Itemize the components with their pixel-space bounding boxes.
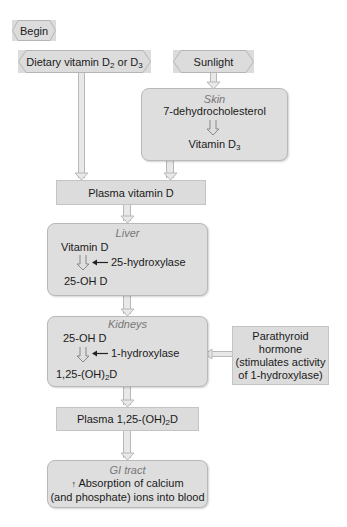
- skin-substrate: 7-dehydrocholesterol: [142, 105, 287, 118]
- kidneys-box: Kidneys 25-OH D 1-hydroxylase 1,25-(OH)2…: [47, 316, 208, 387]
- sunlight-label: Sunlight: [194, 56, 234, 68]
- gi-organ-label: GI tract: [48, 464, 207, 477]
- kidneys-substrate: 25-OH D: [63, 332, 106, 345]
- kidneys-product: 1,25-(OH)2D: [56, 368, 117, 381]
- enzyme-arrow-icon: [92, 259, 108, 266]
- liver-organ-label: Liver: [48, 227, 207, 239]
- liver-product: 25-OH D: [64, 275, 107, 288]
- sunlight-node: Sunlight: [173, 50, 254, 73]
- skin-organ-label: Skin: [142, 93, 287, 105]
- begin-label: Begin: [20, 25, 48, 37]
- begin-node: Begin: [12, 20, 56, 41]
- skin-product: Vitamin D3: [142, 138, 287, 151]
- plasma-calcitriol-label: Plasma 1,25-(OH)2D: [77, 413, 178, 425]
- conversion-arrow-icon: [76, 255, 90, 271]
- plasma-calcitriol-box: Plasma 1,25-(OH)2D: [56, 407, 199, 431]
- gi-tract-box: GI tract ↑ Absorption of calcium (and ph…: [47, 460, 208, 508]
- kidneys-organ-label: Kidneys: [48, 318, 207, 330]
- pth-line-2: hormone: [259, 343, 302, 356]
- plasma-vitamin-d-box: Plasma vitamin D: [56, 180, 206, 205]
- pth-line-3: (stimulates activity: [236, 356, 326, 369]
- pth-line-1: Parathyroid: [252, 330, 308, 343]
- enzyme-arrow-icon: [92, 350, 108, 357]
- liver-box: Liver Vitamin D 25-hydroxylase 25-OH D: [47, 223, 208, 296]
- connector-dietary-to-plasma: [78, 72, 85, 178]
- plasma-vitamin-d-label: Plasma vitamin D: [88, 187, 174, 199]
- liver-substrate: Vitamin D: [61, 241, 108, 254]
- pth-line-4: of 1-hydroxylase): [238, 369, 322, 382]
- gi-line-2: (and phosphate) ions into blood: [48, 491, 207, 504]
- kidneys-enzyme: 1-hydroxylase: [111, 347, 179, 360]
- liver-enzyme: 25-hydroxylase: [111, 256, 186, 269]
- conversion-arrow-icon: [76, 347, 90, 363]
- gi-line-1: ↑ Absorption of calcium: [48, 477, 207, 491]
- conversion-arrow-icon: [206, 120, 220, 136]
- parathyroid-hormone-box: Parathyroid hormone (stimulates activity…: [232, 326, 329, 385]
- skin-box: Skin 7-dehydrocholesterol Vitamin D3: [141, 88, 288, 161]
- dietary-label: Dietary vitamin D2 or D3: [26, 56, 143, 68]
- dietary-vitamin-d-node: Dietary vitamin D2 or D3: [18, 50, 151, 73]
